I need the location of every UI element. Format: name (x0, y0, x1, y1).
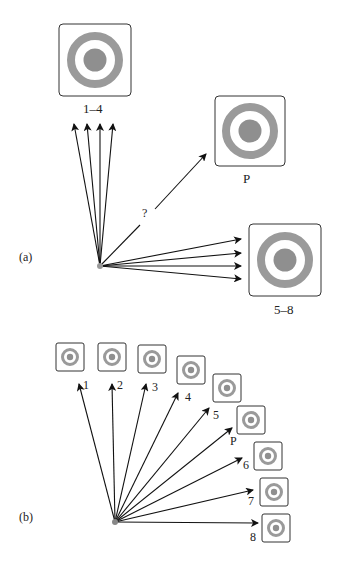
target-b-7-icon (260, 478, 288, 506)
panel-a-label: (a) (19, 251, 32, 263)
target-b-1-icon (56, 343, 84, 371)
target-b-6-icon (254, 442, 282, 470)
label-b-p: P (230, 435, 237, 447)
label-b-3: 3 (152, 381, 158, 393)
arrows-1-4 (74, 124, 113, 266)
panel-b (56, 343, 290, 542)
label-b-4: 4 (185, 391, 191, 403)
label-5-8: 5–8 (274, 303, 294, 316)
label-b-7: 7 (248, 495, 254, 507)
target-b-2-icon (98, 343, 126, 371)
label-b-1: 1 (83, 379, 89, 391)
target-b-5-icon (213, 374, 241, 402)
label-1-4: 1–4 (83, 102, 103, 115)
arrows-b (79, 384, 258, 523)
target-5-8-icon (249, 224, 321, 296)
label-b-6: 6 (243, 459, 249, 471)
target-b-4-icon (177, 356, 205, 384)
question-label: ? (142, 207, 147, 219)
label-b-5: 5 (213, 409, 219, 421)
target-1-4-icon (59, 24, 131, 96)
label-p: P (243, 172, 250, 185)
origin-point-a (97, 263, 103, 269)
target-p-icon (215, 96, 285, 166)
target-b-3-icon (138, 345, 166, 373)
label-b-8: 8 (250, 531, 256, 543)
label-b-2: 2 (117, 379, 123, 391)
diagram-canvas (0, 0, 343, 564)
target-b-p-icon (237, 406, 265, 434)
origin-point-b (112, 519, 118, 525)
panel-b-label: (b) (19, 511, 33, 523)
target-b-8-icon (262, 514, 290, 542)
panel-a (59, 24, 321, 296)
